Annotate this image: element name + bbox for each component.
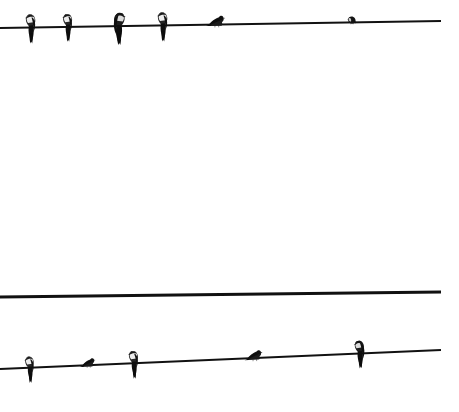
photo-canvas [0, 0, 459, 412]
birds-on-wires-illustration [0, 0, 459, 412]
sky-background [0, 0, 459, 412]
